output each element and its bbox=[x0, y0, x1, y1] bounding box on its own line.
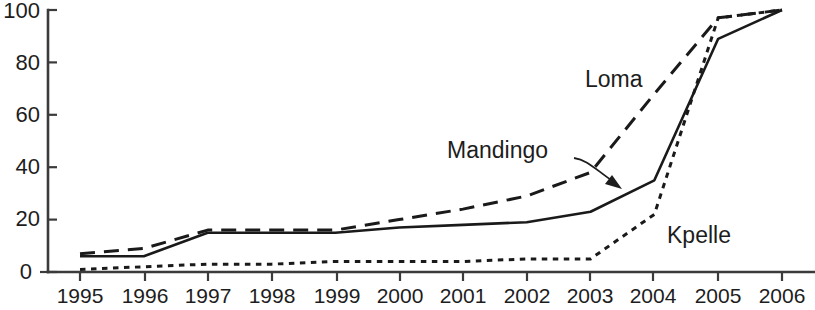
y-tick-label-100: 100 bbox=[3, 0, 40, 23]
mandingo-leader-line bbox=[574, 158, 614, 182]
annotation-loma: Loma bbox=[585, 66, 643, 92]
x-axis-ticks bbox=[80, 272, 782, 281]
y-tick-label-20: 20 bbox=[16, 206, 40, 231]
series-label-loma: Loma bbox=[585, 66, 643, 92]
y-tick-label-80: 80 bbox=[16, 50, 40, 75]
series-line-mandingo bbox=[80, 10, 782, 256]
y-tick-label-40: 40 bbox=[16, 154, 40, 179]
x-tick-label-2002: 2002 bbox=[504, 284, 551, 307]
annotation-mandingo: Mandingo bbox=[447, 137, 622, 189]
annotation-kpelle: Kpelle bbox=[667, 222, 731, 248]
y-tick-label-60: 60 bbox=[16, 102, 40, 127]
y-axis-tick-labels: 100 80 60 40 20 0 bbox=[3, 0, 40, 284]
x-tick-label-1998: 1998 bbox=[249, 284, 296, 307]
line-chart: 100 80 60 40 20 0 1995 1996 1997 bbox=[0, 0, 815, 310]
x-tick-label-1995: 1995 bbox=[57, 284, 104, 307]
x-tick-label-2005: 2005 bbox=[695, 284, 742, 307]
series-label-mandingo: Mandingo bbox=[447, 137, 548, 163]
x-tick-label-2003: 2003 bbox=[567, 284, 614, 307]
x-axis: 1995 1996 1997 1998 1999 2000 2001 2002 … bbox=[48, 272, 815, 307]
x-tick-label-2004: 2004 bbox=[630, 284, 677, 307]
x-tick-label-2000: 2000 bbox=[377, 284, 424, 307]
y-tick-label-0: 0 bbox=[20, 259, 32, 284]
x-axis-tick-labels: 1995 1996 1997 1998 1999 2000 2001 2002 … bbox=[57, 284, 806, 307]
y-axis: 100 80 60 40 20 0 bbox=[3, 0, 57, 284]
x-tick-label-1996: 1996 bbox=[122, 284, 169, 307]
series-label-kpelle: Kpelle bbox=[667, 222, 731, 248]
x-tick-label-1999: 1999 bbox=[314, 284, 361, 307]
x-tick-label-2001: 2001 bbox=[440, 284, 487, 307]
x-tick-label-2006: 2006 bbox=[759, 284, 806, 307]
x-tick-label-1997: 1997 bbox=[185, 284, 232, 307]
